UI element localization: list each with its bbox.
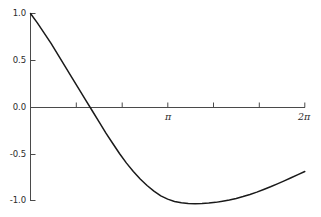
xtick-label-two-pi: 2π xyxy=(291,112,317,122)
ytick-label-4: -0.5 xyxy=(2,150,26,159)
ytick-label-5: -1.0 xyxy=(2,196,26,205)
chart-figure: 1.0 0.5 0.0 -0.5 -1.0 π 2π xyxy=(0,0,321,217)
xtick-label-pi: π xyxy=(156,112,180,122)
ytick-label-1: 1.0 xyxy=(2,9,26,18)
data-curve xyxy=(31,14,305,204)
y-tick-marks xyxy=(31,14,36,201)
plot-area xyxy=(0,0,321,217)
x-tick-marks xyxy=(76,103,304,108)
ytick-label-2: 0.5 xyxy=(2,56,26,65)
ytick-label-3: 0.0 xyxy=(2,103,26,112)
